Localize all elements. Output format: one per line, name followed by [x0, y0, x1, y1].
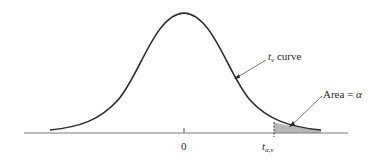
t-distribution-diagram: tν curve Area = α 0 tα,ν: [0, 0, 378, 163]
curve-label: tν curve: [268, 50, 301, 64]
zero-tick-label: 0: [181, 140, 187, 152]
t-curve: [50, 13, 321, 130]
curve-label-arrow: [236, 60, 266, 78]
area-label: Area = α: [323, 88, 362, 100]
shaded-tail-area: [274, 123, 321, 134]
critical-value-label: tα,ν: [262, 140, 274, 154]
area-label-arrow: [292, 96, 322, 125]
